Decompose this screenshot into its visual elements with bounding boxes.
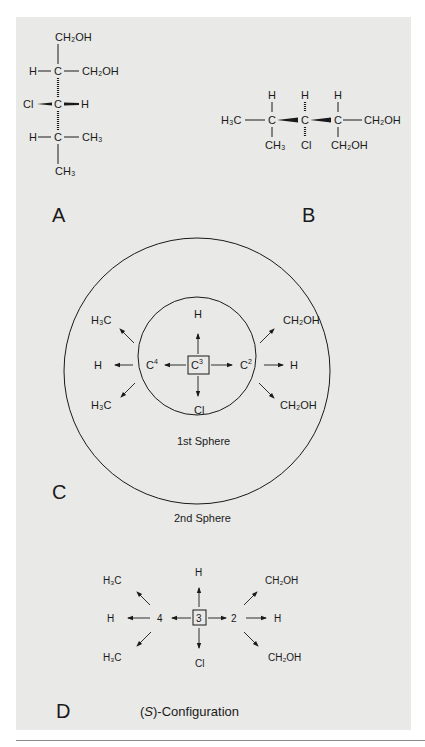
b-c2-top: H (301, 89, 309, 101)
b-c2: C (301, 114, 309, 126)
panel-label-a: A (52, 204, 66, 226)
a-bottom-group: CH₃ (55, 165, 75, 177)
panel-b-structure: H H H H₃C C C C CH₂OH CH₃ Cl CH₂OH (221, 89, 401, 151)
panel-c-spheres (64, 238, 330, 504)
panel-label-b: B (302, 204, 315, 226)
first-sphere-caption: 1st Sphere (177, 435, 230, 447)
b-right-group: CH₂OH (364, 114, 401, 126)
a-c2-left: Cl (23, 98, 33, 110)
c-right-branch-top: CH₂OH (283, 314, 320, 326)
b-c3: C (334, 114, 342, 126)
c-up-atom: H (194, 308, 202, 320)
c-center-atom: C3 (191, 358, 203, 371)
d-left-branch-mid: H (107, 613, 114, 624)
b-c1-top: H (268, 89, 276, 101)
panel-a-structure: CH₂OH H C CH₂OH Cl C H H C CH₃ CH₃ (23, 31, 119, 177)
second-sphere-caption: 2nd Sphere (174, 512, 231, 524)
c-left-branch-top: H₃C (91, 314, 111, 326)
chemistry-figure: CH₂OH H C CH₂OH Cl C H H C CH₃ CH₃ A H H… (0, 0, 425, 747)
a-c1: C (54, 65, 62, 77)
c-down-atom: Cl (194, 404, 204, 416)
d-center-atom: 3 (196, 613, 202, 624)
panel-label-c: C (52, 481, 66, 503)
a-c2-right: H (81, 98, 89, 110)
d-right-branch-bottom: CH₂OH (268, 652, 301, 663)
c-right-branch-bottom: CH₂OH (280, 399, 317, 411)
second-sphere-circle (64, 238, 330, 504)
a-c1-right: CH₂OH (82, 65, 119, 77)
b-c3-bottom: CH₂OH (331, 139, 368, 151)
d-left-atom: 4 (157, 613, 163, 624)
d-left-branch-bottom: H₃C (103, 652, 122, 663)
c-left-branch-mid: H (94, 359, 102, 371)
c-right-atom: C2 (240, 358, 252, 371)
b-c1-bottom: CH₃ (265, 139, 285, 151)
d-left-branch-top: H₃C (103, 575, 122, 586)
d-up-atom: H (195, 567, 202, 578)
d-right-branch-mid: H (274, 613, 281, 624)
c-left-branch-bottom: H₃C (91, 399, 111, 411)
d-right-branch-top: CH₂OH (265, 575, 298, 586)
d-down-atom: Cl (195, 658, 204, 669)
b-left-group: H₃C (221, 114, 241, 126)
c-left-atom: C4 (146, 358, 158, 371)
b-c1: C (268, 114, 276, 126)
b-c3-top: H (334, 89, 342, 101)
a-top-group: CH₂OH (55, 31, 92, 43)
a-c2: C (54, 98, 62, 110)
d-right-atom: 2 (231, 613, 237, 624)
a-c3-right: CH₃ (82, 131, 102, 143)
b-c2-bottom: Cl (301, 139, 311, 151)
panel-d-structure: 3 H Cl 4 2 H₃C H H₃C CH₂OH H CH₂OH (103, 567, 301, 669)
panel-c-structure: C3 H Cl C4 C2 H₃C H H₃C CH₂OH H CH₂OH 1s… (91, 308, 320, 524)
configuration-caption: (S)-Configuration (140, 704, 239, 719)
a-c3-left: H (29, 131, 37, 143)
c-right-branch-mid: H (290, 359, 298, 371)
a-c3: C (54, 131, 62, 143)
panel-label-d: D (56, 700, 70, 722)
a-c1-left: H (29, 65, 37, 77)
